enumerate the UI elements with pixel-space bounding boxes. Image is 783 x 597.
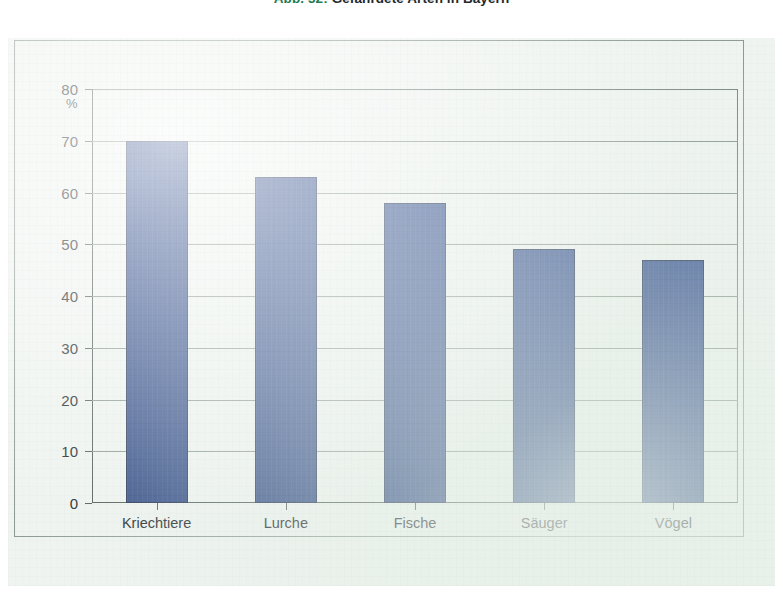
plot-area (92, 89, 738, 503)
x-axis-tick (157, 503, 158, 510)
y-axis-tick (85, 451, 92, 452)
x-axis-category-labels: KriechtiereLurcheFischeSäugerVögel (92, 515, 738, 545)
x-axis-tick (673, 503, 674, 510)
y-axis-tick-label: 60 (48, 184, 78, 201)
bar (126, 141, 188, 503)
y-axis-tick (85, 244, 92, 245)
figure-number: Abb. 32: (274, 0, 328, 6)
y-axis-tick (85, 141, 92, 142)
y-axis-tick-label: 20 (48, 391, 78, 408)
x-axis-category-label: Vögel (655, 515, 692, 531)
y-axis-tick (85, 89, 92, 90)
y-axis-tick (85, 296, 92, 297)
x-axis-tick (415, 503, 416, 510)
gridline (92, 193, 738, 194)
y-axis-tick (85, 193, 92, 194)
y-axis-tick-label: 80 (48, 81, 78, 98)
bar (513, 249, 575, 503)
y-axis-tick (85, 348, 92, 349)
y-axis-tick-label: 30 (48, 339, 78, 356)
y-axis-tick-label: 40 (48, 288, 78, 305)
bar (642, 260, 704, 503)
x-axis-tick (286, 503, 287, 510)
x-axis-category-label: Lurche (264, 515, 308, 531)
y-axis-tick-label: 0 (48, 495, 78, 512)
y-axis-tick-label: 50 (48, 236, 78, 253)
figure-caption: Abb. 32: Gefährdete Arten in Bayern (0, 0, 783, 13)
y-axis-tick-label: 70 (48, 132, 78, 149)
x-axis-category-label: Säuger (521, 515, 568, 531)
gridline (92, 141, 738, 142)
x-axis-category-label: Kriechtiere (122, 515, 191, 531)
chart-panel: % 01020304050607080 KriechtiereLurcheFis… (8, 38, 775, 586)
x-axis-tick (544, 503, 545, 510)
figure-caption-text: Gefährdete Arten in Bayern (328, 0, 510, 6)
y-axis-tick-labels: 01020304050607080 (44, 89, 78, 503)
y-axis-tick (85, 503, 92, 504)
y-axis-tick (85, 400, 92, 401)
bar (384, 203, 446, 503)
y-axis-tick-label: 10 (48, 443, 78, 460)
x-axis-category-label: Fische (394, 515, 437, 531)
bar (255, 177, 317, 503)
